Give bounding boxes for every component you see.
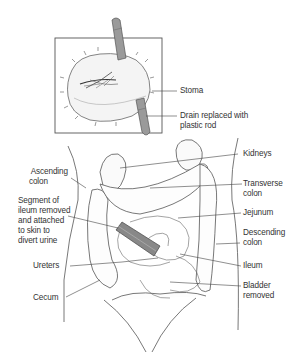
ileal-segment [116, 222, 160, 256]
label-descending-colon-line1: Descending [243, 228, 285, 238]
label-ileum: Ileum [243, 261, 263, 271]
label-kidneys: Kidneys [243, 149, 271, 159]
label-bladder-line1: Bladder [243, 281, 271, 291]
label-segment-line1: Segment of [18, 196, 59, 206]
label-descending-colon-line2: colon [243, 238, 262, 248]
label-segment-line3: and attached [18, 216, 64, 226]
label-ascending-colon-line2: colon [20, 177, 48, 187]
label-bladder-line2: removed [243, 291, 274, 301]
label-drain-line1: Drain replaced with [180, 111, 248, 121]
label-stoma: Stoma [180, 86, 203, 96]
label-transverse-colon-line2: colon [243, 189, 262, 199]
label-jejunum: Jejunum [243, 208, 273, 218]
label-transverse-colon-line1: Transverse [243, 179, 283, 189]
inset-stoma-detail [55, 18, 177, 135]
label-segment-line5: divert urine [18, 236, 57, 246]
label-segment-line4: to skin to [18, 226, 50, 236]
label-cecum: Cecum [33, 293, 58, 303]
label-ascending-colon-line1: Ascending [20, 167, 68, 177]
label-segment-line2: ileum removed [18, 206, 70, 216]
label-ureters: Ureters [33, 261, 59, 271]
label-drain-line2: plastic rod [180, 121, 216, 131]
